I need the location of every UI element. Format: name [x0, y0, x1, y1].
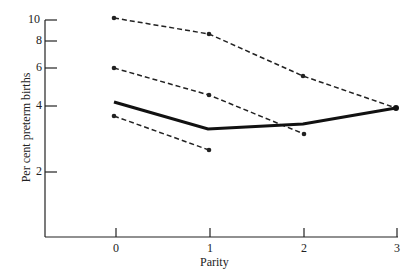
x-axis-label: Parity — [200, 255, 229, 270]
x-tick-1: 1 — [207, 241, 213, 256]
y-tick-4: 4 — [36, 98, 42, 113]
chart-plot — [0, 0, 413, 280]
y-tick-8: 8 — [36, 33, 42, 48]
series-overall — [114, 102, 399, 129]
y-tick-2: 2 — [36, 164, 42, 179]
x-tick-2: 2 — [301, 241, 307, 256]
y-tick-10: 10 — [28, 12, 40, 27]
y-tick-6: 6 — [36, 60, 42, 75]
series-a — [112, 16, 396, 108]
y-axis-label: Per cent preterm births — [19, 58, 34, 198]
x-tick-0: 0 — [113, 241, 119, 256]
x-tick-3: 3 — [394, 241, 400, 256]
series-c — [112, 114, 212, 153]
